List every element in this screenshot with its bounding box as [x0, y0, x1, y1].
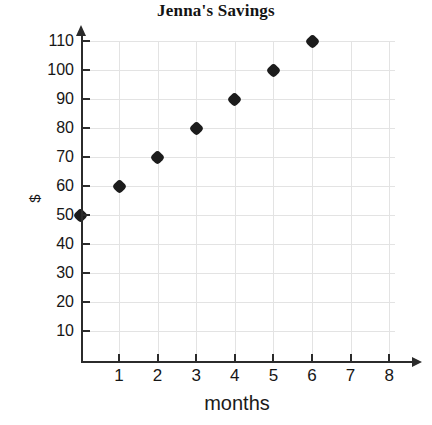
data-point [150, 149, 166, 165]
x-axis-tick [157, 354, 159, 362]
gridline-vertical [119, 41, 120, 362]
y-axis-tick-label: 110 [34, 33, 74, 49]
y-axis-tick-label: 100 [34, 62, 74, 78]
gridline-horizontal [82, 244, 395, 245]
gridline-vertical [389, 41, 390, 362]
y-axis-tick [83, 301, 90, 303]
y-axis-tick-label: 10 [34, 323, 74, 339]
x-axis-tick [388, 354, 390, 362]
gridline-horizontal [82, 41, 395, 42]
gridline-horizontal [82, 128, 395, 129]
y-axis-tick [83, 127, 90, 129]
y-axis-line [81, 34, 83, 363]
x-axis-tick [195, 354, 197, 362]
y-axis-tick-label: 80 [34, 120, 74, 136]
y-axis-arrow-icon [76, 25, 86, 36]
data-point [227, 91, 243, 107]
gridline-horizontal [82, 70, 395, 71]
chart-title: Jenna's Savings [0, 1, 432, 21]
data-point [304, 33, 320, 49]
y-axis-tick [83, 330, 90, 332]
x-axis-tick [234, 354, 236, 362]
x-axis-tick-label: 8 [377, 366, 401, 386]
gridline-vertical [196, 41, 197, 362]
x-axis-tick [350, 354, 352, 362]
gridline-horizontal [82, 186, 395, 187]
x-axis-tick-label: 5 [261, 366, 285, 386]
y-axis-tick-label: 90 [34, 91, 74, 107]
y-axis-title: $ [26, 159, 43, 239]
x-axis-tick-label: 6 [300, 366, 324, 386]
y-axis-tick-label: 20 [34, 294, 74, 310]
x-axis-tick [272, 354, 274, 362]
gridline-vertical [235, 41, 236, 362]
y-axis-tick [83, 69, 90, 71]
y-axis-tick [83, 156, 90, 158]
x-axis-tick-label: 7 [339, 366, 363, 386]
y-axis-tick [83, 40, 90, 42]
gridline-horizontal [82, 157, 395, 158]
data-point [111, 178, 127, 194]
gridline-vertical [273, 41, 274, 362]
x-axis-title: months [82, 392, 392, 415]
x-axis-tick [118, 354, 120, 362]
y-axis-tick [83, 272, 90, 274]
y-axis-tick [83, 214, 90, 216]
savings-scatter-chart: Jenna's Savings 102030405060708090100110… [0, 0, 432, 425]
gridline-horizontal [82, 331, 395, 332]
x-axis-arrow-icon [412, 357, 422, 367]
y-axis-tick [83, 98, 90, 100]
gridline-vertical [351, 41, 352, 362]
y-axis-tick-label: 30 [34, 265, 74, 281]
data-point [188, 120, 204, 136]
data-point [266, 62, 282, 78]
x-axis-tick-label: 1 [107, 366, 131, 386]
gridline-horizontal [82, 302, 395, 303]
plot-area [82, 41, 395, 362]
gridline-horizontal [82, 215, 395, 216]
x-axis-tick [311, 354, 313, 362]
y-axis-tick [83, 185, 90, 187]
x-axis-tick-label: 2 [146, 366, 170, 386]
y-axis-tick [83, 243, 90, 245]
gridline-vertical [158, 41, 159, 362]
x-axis-tick-label: 3 [184, 366, 208, 386]
gridline-horizontal [82, 273, 395, 274]
x-axis-line [81, 361, 414, 363]
gridline-vertical [312, 41, 313, 362]
x-axis-tick-label: 4 [223, 366, 247, 386]
